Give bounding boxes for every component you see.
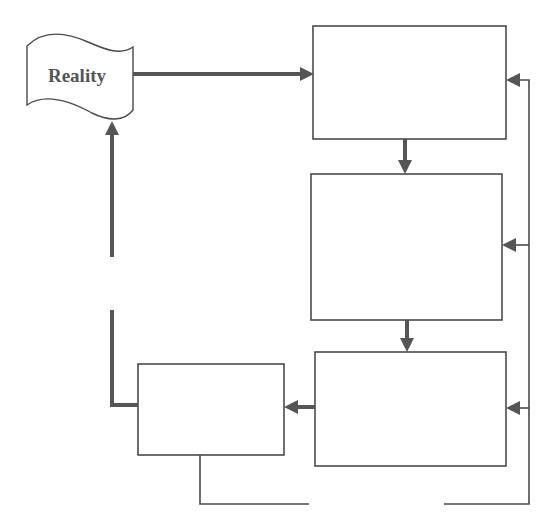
- arrowhead-down-icon: [400, 338, 414, 352]
- diagram-canvas: Reality: [0, 0, 556, 524]
- arrowhead-up-icon: [105, 121, 119, 135]
- box-middle: [311, 174, 502, 320]
- box-bottom-left: [138, 364, 284, 455]
- arrow-bottom-left-to-reality: [105, 121, 138, 405]
- arrow-middle-to-bottom-right: [400, 320, 414, 352]
- arrowhead-left-icon: [284, 400, 298, 414]
- arrowhead-left-icon: [506, 73, 520, 87]
- box-bottom-right: [315, 352, 506, 466]
- arrowhead-left-icon: [506, 401, 520, 415]
- arrow-bottom-right-to-bottom-left: [284, 400, 315, 414]
- arrow-reality-to-top: [133, 67, 314, 81]
- arrow-top-to-middle: [398, 139, 412, 174]
- arrowhead-right-icon: [300, 67, 314, 81]
- box-top: [313, 26, 506, 139]
- reality-label: Reality: [48, 65, 107, 86]
- reality-node: Reality: [27, 34, 133, 119]
- arrowhead-down-icon: [398, 160, 412, 174]
- arrowhead-left-icon: [502, 238, 516, 252]
